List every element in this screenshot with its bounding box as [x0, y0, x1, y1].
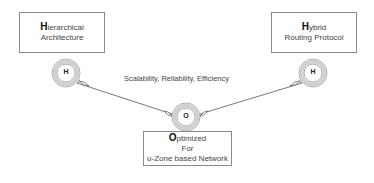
edge-caption: Scalability, Reliability, Efficiency — [124, 74, 229, 83]
diamond-icon — [79, 81, 89, 86]
subtitle: Routing Protocol — [272, 33, 356, 43]
line-2: For — [144, 144, 231, 154]
connector-right — [200, 83, 302, 114]
left-circle-label: H — [56, 68, 76, 75]
bottom-circle-label: O — [176, 112, 196, 119]
subtitle: Architecture — [20, 33, 104, 43]
connector-left — [77, 83, 172, 114]
title-initial: H — [302, 21, 309, 32]
line-3: u-Zone based Network — [144, 154, 231, 164]
diamond-icon — [290, 81, 300, 86]
hybrid-routing-protocol-box: Hybrid Routing Protocol — [271, 12, 357, 53]
optimized-box: Optimized For u-Zone based Network — [143, 131, 232, 166]
title-rest: ybrid — [309, 23, 326, 32]
title-rest: ierarchical — [47, 23, 83, 32]
hierarchical-architecture-box: Hierarchical Architecture — [19, 12, 105, 53]
title-rest: ptimized — [176, 134, 206, 143]
right-circle-label: H — [303, 68, 323, 75]
